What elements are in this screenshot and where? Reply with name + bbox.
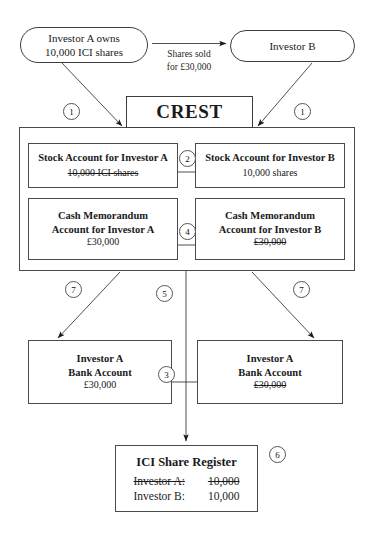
- bank-right-amount: £30,000: [254, 379, 287, 392]
- step-marker-5: 5: [156, 285, 173, 302]
- register-row-b-shares: 10,000: [208, 489, 240, 504]
- cash-memorandum-a-box: Cash Memorandum Account for Investor A £…: [28, 198, 178, 260]
- investor-a-bank-account-right-box: Investor A Bank Account £30,000: [197, 340, 343, 404]
- stock-account-b-title: Stock Account for Investor B: [205, 151, 335, 164]
- investor-b-label: Investor B: [269, 39, 315, 53]
- cash-memorandum-b-box: Cash Memorandum Account for Investor B £…: [195, 198, 345, 260]
- step-marker-7-left: 7: [65, 281, 82, 298]
- stock-account-a-box: Stock Account for Investor A 10,000 ICI …: [28, 143, 178, 188]
- bank-right-line-2: Bank Account: [238, 366, 301, 379]
- stock-account-b-box: Stock Account for Investor B 10,000 shar…: [195, 143, 345, 188]
- step-marker-7-right: 7: [293, 281, 310, 298]
- cash-memorandum-b-line-1: Cash Memorandum: [225, 209, 315, 222]
- register-row-a-name: Investor A:: [134, 474, 185, 489]
- step-marker-1-right: 1: [294, 103, 311, 120]
- investor-a-line-2: 10,000 ICI shares: [45, 45, 123, 59]
- cash-memorandum-a-line-2: Account for Investor A: [52, 223, 155, 236]
- register-title: ICI Share Register: [136, 454, 236, 470]
- stock-account-a-title: Stock Account for Investor A: [38, 151, 168, 164]
- bank-left-line-2: Bank Account: [68, 366, 131, 379]
- step-marker-6-number: 6: [275, 450, 280, 460]
- bank-left-amount: £30,000: [84, 379, 117, 392]
- step-marker-1-right-number: 1: [300, 107, 305, 117]
- stock-account-a-amount: 10,000 ICI shares: [68, 167, 139, 180]
- investor-a-oval: Investor A owns 10,000 ICI shares: [20, 27, 148, 63]
- register-row-b-name: Investor B:: [134, 489, 185, 504]
- investor-a-bank-account-left-box: Investor A Bank Account £30,000: [28, 340, 172, 404]
- step-marker-1-left-number: 1: [69, 107, 74, 117]
- step-marker-6: 6: [269, 446, 286, 463]
- register-row-a-shares: 10,000: [208, 474, 240, 489]
- shares-sold-label: Shares sold for £30,000: [150, 48, 228, 74]
- step-marker-7-right-number: 7: [299, 285, 304, 295]
- cash-memorandum-a-line-1: Cash Memorandum: [58, 209, 148, 222]
- step-marker-3: 3: [158, 366, 175, 383]
- bank-left-line-1: Investor A: [77, 352, 124, 365]
- crest-title-box: CREST: [126, 96, 253, 128]
- crest-label: CREST: [156, 100, 222, 124]
- step-marker-2: 2: [179, 150, 196, 167]
- register-row-investor-a: Investor A: 10,000: [128, 474, 246, 489]
- stock-account-b-amount: 10,000 shares: [243, 167, 298, 180]
- step-marker-3-number: 3: [164, 370, 169, 380]
- step-marker-4-number: 4: [185, 227, 190, 237]
- investor-a-line-1: Investor A owns: [48, 31, 120, 45]
- crest-settlement-diagram: Investor A owns 10,000 ICI shares Invest…: [0, 0, 375, 543]
- shares-sold-line-2: for £30,000: [150, 61, 228, 74]
- shares-sold-line-1: Shares sold: [150, 48, 228, 61]
- step-marker-7-left-number: 7: [71, 285, 76, 295]
- ici-share-register-box: ICI Share Register Investor A: 10,000 In…: [115, 445, 258, 512]
- cash-memorandum-b-amount: £30,000: [254, 236, 287, 249]
- step-marker-5-number: 5: [162, 289, 167, 299]
- step-marker-1-left: 1: [63, 103, 80, 120]
- cash-memorandum-a-amount: £30,000: [87, 236, 120, 249]
- step-marker-4: 4: [179, 223, 196, 240]
- bank-right-line-1: Investor A: [247, 352, 294, 365]
- register-row-investor-b: Investor B: 10,000: [128, 489, 246, 504]
- investor-b-oval: Investor B: [230, 30, 355, 62]
- cash-memorandum-b-line-2: Account for Investor B: [219, 223, 322, 236]
- step-marker-2-number: 2: [185, 154, 190, 164]
